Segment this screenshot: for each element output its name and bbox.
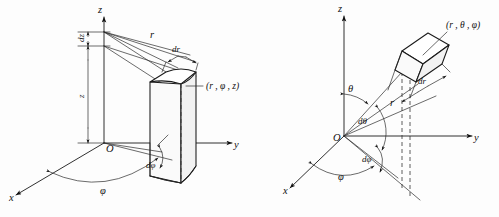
point-label-spherical: (r , θ , φ) xyxy=(446,20,480,31)
theta-label: θ xyxy=(348,83,353,94)
z-height-label: z xyxy=(76,94,86,99)
dr-label: dr xyxy=(418,76,427,86)
spherical-dphi-arc xyxy=(378,148,383,172)
dtheta-label: dθ xyxy=(358,116,368,126)
cylindrical-dimension-lines xyxy=(78,32,110,143)
spherical-theta-arc xyxy=(344,94,368,104)
spherical-axes xyxy=(290,16,472,188)
cylindrical-coordinates-diagram: z y x O dz z xyxy=(0,0,250,217)
r-label: r xyxy=(150,29,155,40)
z-axis-label: z xyxy=(337,3,342,14)
y-axis-label: y xyxy=(473,132,479,143)
y-axis-label: y xyxy=(233,139,239,150)
z-axis-label: z xyxy=(97,4,102,15)
dz-label: dz xyxy=(76,34,86,43)
spherical-coordinates-diagram: z y x O θ dθ xyxy=(250,0,499,217)
dr-label: dr xyxy=(172,44,181,54)
figure-root: z y x O dz z xyxy=(0,0,499,217)
phi-label: φ xyxy=(100,185,106,196)
origin-label: O xyxy=(333,132,341,143)
cylindrical-phi-arc xyxy=(50,158,158,182)
x-axis-label: x xyxy=(8,192,14,203)
phi-label: φ xyxy=(338,171,344,182)
x-axis-line xyxy=(290,136,344,188)
dphi-label: dφ xyxy=(362,154,372,164)
x-axis-label: x xyxy=(282,185,288,196)
cylindrical-axes xyxy=(16,17,232,195)
dphi-label: dφ xyxy=(146,160,156,170)
spherical-dtheta-arc xyxy=(378,108,386,150)
spherical-volume-element xyxy=(395,33,449,82)
x-axis-line xyxy=(16,143,104,195)
r-label: r xyxy=(390,97,395,108)
point-label-cylindrical: (r , φ , z) xyxy=(206,81,239,92)
